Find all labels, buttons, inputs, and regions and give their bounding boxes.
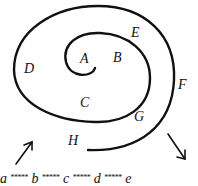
seq-separator: *****: [11, 173, 29, 182]
arrow-down-right-icon: [168, 134, 185, 159]
seq-separator: *****: [104, 173, 122, 182]
spiral-diagram: [0, 0, 198, 186]
seq-d: d: [94, 171, 101, 186]
label-B: B: [113, 51, 122, 65]
label-H: H: [68, 134, 78, 148]
seq-c: c: [63, 171, 69, 186]
seq-separator: *****: [42, 173, 60, 182]
label-G: G: [134, 110, 144, 124]
arrow-up-right-icon: [16, 142, 32, 164]
label-F: F: [178, 78, 187, 92]
seq-separator: *****: [73, 173, 91, 182]
label-A: A: [80, 52, 89, 66]
label-C: C: [80, 96, 89, 110]
label-E: E: [131, 26, 140, 40]
seq-a: a: [0, 171, 7, 186]
seq-b: b: [32, 171, 39, 186]
spiral-curve: [14, 6, 174, 150]
sequence-row: a ***** b ***** c ***** d ***** e: [0, 171, 198, 186]
label-D: D: [24, 62, 34, 76]
seq-e: e: [125, 171, 131, 186]
